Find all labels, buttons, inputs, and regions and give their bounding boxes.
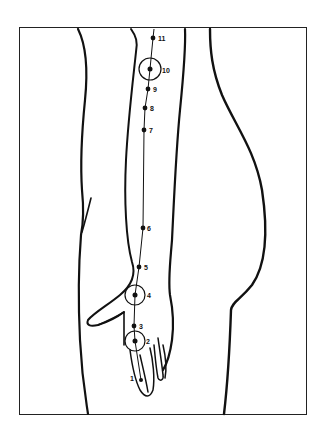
point-6: 6 — [141, 225, 151, 232]
thumb-edge — [98, 312, 124, 345]
arm-back-edge — [87, 29, 136, 326]
point-8: 8 — [143, 105, 154, 112]
point-4: 4 — [125, 285, 151, 305]
back-contour — [78, 29, 88, 414]
point-label: 6 — [147, 225, 151, 232]
point-label: 5 — [144, 264, 148, 271]
point-label: 1 — [130, 375, 134, 382]
point-10: 10 — [139, 58, 170, 80]
point-label: 7 — [149, 127, 153, 134]
point-3: 3 — [132, 323, 143, 330]
point-label: 11 — [158, 35, 166, 42]
point-label: 10 — [162, 67, 170, 74]
point-label: 3 — [139, 323, 143, 330]
point-7: 7 — [142, 127, 153, 134]
point-label: 2 — [146, 338, 150, 345]
point-label: 9 — [153, 86, 157, 93]
point-label: 8 — [150, 105, 154, 112]
meridian-diagram: 11 10 9 8 7 6 5 4 3 2 1 — [0, 0, 325, 441]
torso-front-contour — [210, 29, 265, 414]
point-2: 2 — [125, 331, 150, 351]
point-label: 4 — [147, 292, 151, 299]
diagram-frame — [20, 28, 307, 415]
arm-front-edge — [163, 29, 185, 370]
meridian-line — [134, 29, 154, 380]
